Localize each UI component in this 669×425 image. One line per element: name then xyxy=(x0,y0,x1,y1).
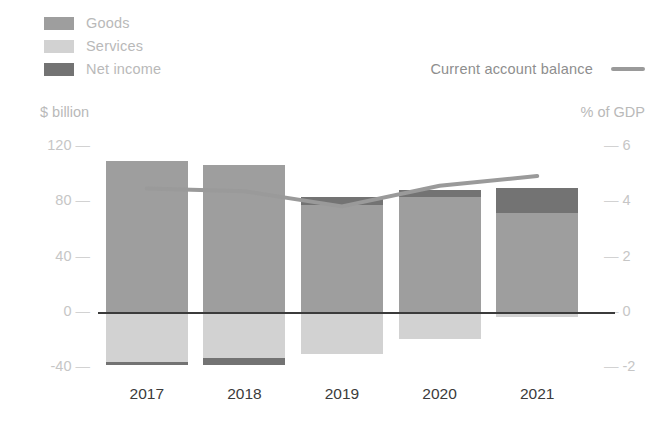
left-axis-tick: -40 — xyxy=(51,358,91,374)
chart-container: Goods Services Net income Current accoun… xyxy=(0,0,669,425)
bar-segment-net-income xyxy=(399,190,481,197)
bar-segment-goods xyxy=(496,213,578,312)
bar-segment-services xyxy=(301,313,383,354)
legend-swatch-net-income xyxy=(44,63,74,76)
bar-segment-services xyxy=(399,313,481,339)
bar-segment-net-income xyxy=(301,197,383,205)
bar-segment-goods xyxy=(301,205,383,313)
right-axis-tick: — 2 xyxy=(604,248,631,264)
bar-segment-net-income xyxy=(106,362,188,365)
right-axis-tick: — 6 xyxy=(604,137,631,153)
legend-item-services: Services xyxy=(44,35,161,58)
bar-segment-goods xyxy=(203,165,285,313)
bar-segment-services xyxy=(203,313,285,359)
x-axis-label: 2019 xyxy=(302,385,382,403)
right-axis-title: % of GDP xyxy=(581,104,645,120)
bar-segment-services xyxy=(106,313,188,363)
bar-segment-goods xyxy=(399,197,481,313)
bar-segment-net-income xyxy=(496,188,578,213)
legend-label-net-income: Net income xyxy=(86,62,161,77)
left-axis-title: $ billion xyxy=(40,104,89,120)
left-axis-tick: 0 — xyxy=(63,303,90,319)
right-axis-tick: — 0 xyxy=(604,303,631,319)
x-axis-label: 2018 xyxy=(204,385,284,403)
legend-item-goods: Goods xyxy=(44,12,161,35)
left-axis-tick: 80 — xyxy=(55,192,90,208)
legend-swatch-services xyxy=(44,40,74,53)
x-axis-label: 2021 xyxy=(497,385,577,403)
x-axis-label: 2017 xyxy=(107,385,187,403)
bar-segment-net-income xyxy=(203,358,285,365)
legend-label-services: Services xyxy=(86,39,143,54)
left-axis-tick: 40 — xyxy=(55,248,90,264)
legend-swatch-goods xyxy=(44,17,74,30)
legend-swatch-current-account-balance xyxy=(611,67,645,71)
legend-line-series: Current account balance xyxy=(430,62,645,77)
x-axis-label: 2020 xyxy=(400,385,480,403)
legend-item-net-income: Net income xyxy=(44,58,161,81)
legend-label-current-account-balance: Current account balance xyxy=(430,62,593,77)
right-axis-tick: — -2 xyxy=(604,358,635,374)
legend-stacked-series: Goods Services Net income xyxy=(44,12,161,81)
left-axis-tick: 120 — xyxy=(47,137,90,153)
legend-label-goods: Goods xyxy=(86,16,130,31)
zero-baseline xyxy=(98,312,615,314)
bar-segment-goods xyxy=(106,161,188,313)
right-axis-tick: — 4 xyxy=(604,192,631,208)
